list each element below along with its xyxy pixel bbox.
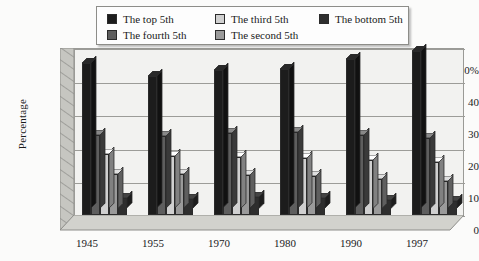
bar [346, 59, 355, 215]
bar [280, 69, 289, 215]
x-tick-label: 1990 [321, 237, 381, 249]
bar-face [82, 63, 91, 215]
bar-face [412, 51, 421, 215]
chart-legend: The top 5th The third 5th The bottom 5th… [96, 6, 409, 45]
plot-area [60, 48, 464, 230]
legend-label: The second 5th [231, 27, 298, 43]
chart-3d-bar: Percentage 50% 40 30 20 10 0 [0, 0, 479, 261]
legend-entry-bottom-5th: The bottom 5th [319, 11, 403, 27]
legend-entry-third-5th: The third 5th [215, 11, 288, 27]
legend-label: The third 5th [231, 11, 288, 27]
bar-face [280, 69, 289, 215]
x-tick-label: 1997 [387, 237, 447, 249]
bar-group [82, 48, 132, 215]
bar-group [346, 48, 396, 215]
legend-swatch-icon [107, 14, 117, 24]
legend-label: The top 5th [123, 11, 174, 27]
bar [214, 70, 223, 215]
legend-swatch-icon [215, 14, 225, 24]
x-tick-label: 1945 [57, 237, 117, 249]
legend-entry-fourth-5th: The fourth 5th [107, 27, 187, 43]
legend-entry-top-5th: The top 5th [107, 11, 174, 27]
y-axis-title: Percentage [16, 74, 28, 174]
x-tick-label: 1970 [189, 237, 249, 249]
bar-group [412, 48, 462, 215]
bar [412, 51, 421, 215]
bars-layer [60, 48, 464, 230]
legend-entry-second-5th: The second 5th [215, 27, 298, 43]
bar-group [148, 48, 198, 215]
legend-label: The bottom 5th [335, 11, 403, 27]
bar-group [280, 48, 330, 215]
x-tick-label: 1955 [123, 237, 183, 249]
bar-group [214, 48, 264, 215]
bar [82, 63, 91, 215]
legend-swatch-icon [215, 30, 225, 40]
legend-label: The fourth 5th [123, 27, 187, 43]
x-tick-label: 1980 [255, 237, 315, 249]
bar-face [346, 59, 355, 215]
bar [148, 76, 157, 215]
legend-swatch-icon [319, 14, 329, 24]
bar-face [148, 76, 157, 215]
bar-face [214, 70, 223, 215]
legend-swatch-icon [107, 30, 117, 40]
